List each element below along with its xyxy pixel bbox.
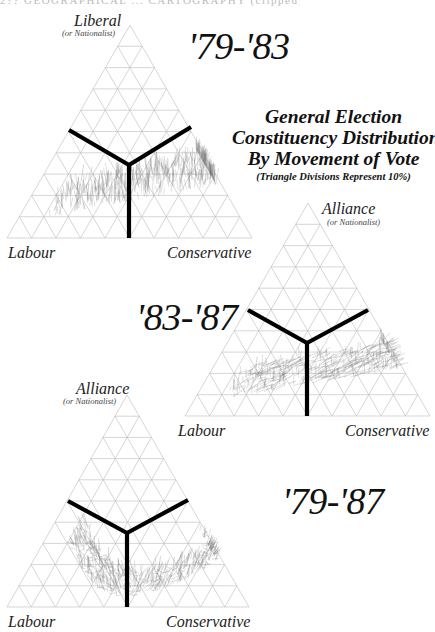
vertex-label-alliance: Alliance [322, 201, 375, 217]
vertex-label-conservative: Conservative [345, 423, 429, 439]
title-line-1: General Election [232, 106, 435, 127]
vertex-sublabel-nationalist: (or Nationalist) [62, 29, 115, 38]
title-line-3: By Movement of Vote [232, 148, 435, 169]
title-line-2: Constituency Distribution [232, 127, 435, 148]
vertex-sublabel-nationalist: (or Nationalist) [63, 397, 116, 406]
vertex-label-labour: Labour [8, 245, 55, 261]
vertex-label-conservative: Conservative [167, 245, 251, 261]
scatter-movement-lines [230, 329, 408, 397]
period-label-79-87: '79-'87 [282, 482, 383, 520]
vertex-label-labour: Labour [8, 614, 55, 630]
period-label-79-83: '79-'83 [188, 27, 289, 65]
title-subtitle: (Triangle Divisions Represent 10%) [232, 170, 435, 184]
vertex-label-conservative: Conservative [166, 614, 250, 630]
scatter-movement-lines [49, 137, 218, 216]
figure-title: General Election Constituency Distributi… [232, 106, 435, 184]
vertex-label-alliance: Alliance [76, 381, 129, 397]
vertex-sublabel-nationalist: (or Nationalist) [327, 218, 380, 227]
vertex-label-labour: Labour [178, 423, 225, 439]
vertex-label-liberal: Liberal [74, 13, 121, 29]
period-label-83-87: '83-'87 [136, 298, 237, 336]
